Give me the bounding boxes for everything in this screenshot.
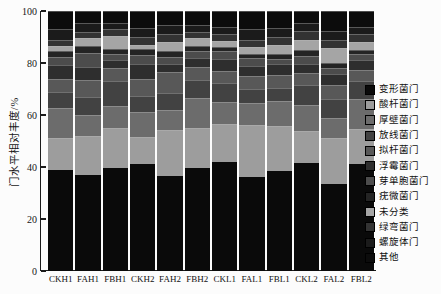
x-tick-label-FAL1: FAL1: [239, 274, 264, 285]
bar-segment-螺旋体门: [349, 27, 374, 35]
stacked-bar-chart: 门水平相对丰度/% 020406080100 CKH1FAH1FBH1CKH2F…: [0, 0, 441, 294]
legend-item-酸杆菌门: 酸杆菌门: [365, 97, 429, 112]
y-tick-mark-60: [41, 114, 46, 115]
bar-segment-绿弯菌门: [294, 31, 319, 41]
bar-segment-变形菌门: [212, 162, 237, 271]
legend-item-浮霉菌门: 浮霉菌门: [365, 158, 429, 173]
x-tick-label-FBH1: FBH1: [103, 274, 128, 285]
bar-segment-变形菌门: [239, 177, 264, 271]
bar-FAL1: [239, 11, 264, 271]
bar-segment-拟杆菌门: [349, 70, 374, 82]
bar-segment-浮霉菌门: [321, 74, 346, 85]
bar-segment-浮霉菌门: [239, 66, 264, 76]
legend-label: 螺旋体门: [379, 237, 419, 248]
bar-segment-厚壁菌门: [157, 110, 182, 130]
bar-segment-厚壁菌门: [294, 105, 319, 132]
y-tick-mark-100: [41, 10, 46, 11]
bar-segment-芽单胞菌门: [130, 55, 155, 64]
legend-swatch-icon: [365, 238, 375, 248]
bar-segment-拟杆菌门: [130, 79, 155, 96]
bar-segment-浮霉菌门: [185, 58, 210, 67]
bar-segment-放线菌门: [130, 96, 155, 113]
bar-segment-厚壁菌门: [75, 115, 100, 136]
bar-segment-放线菌门: [321, 99, 346, 118]
bar-segment-未分类: [294, 40, 319, 49]
bar-CKH1: [48, 11, 73, 271]
legend-item-厚壁菌门: 厚壁菌门: [365, 113, 429, 128]
bar-segment-浮霉菌门: [212, 59, 237, 71]
bar-FAL2: [321, 11, 346, 271]
bar-segment-放线菌门: [75, 97, 100, 115]
y-tick-label-40: 40: [2, 162, 37, 173]
bar-segment-其他: [321, 11, 346, 31]
bar-segment-变形菌门: [103, 168, 128, 271]
bar-segment-螺旋体门: [267, 28, 292, 37]
bar-segment-绿弯菌门: [349, 34, 374, 42]
bar-segment-酸杆菌门: [239, 125, 264, 178]
x-tick-label-FBL1: FBL1: [267, 274, 292, 285]
legend-item-绿弯菌门: 绿弯菌门: [365, 220, 429, 235]
bar-segment-酸杆菌门: [75, 136, 100, 175]
legend-item-拟杆菌门: 拟杆菌门: [365, 143, 429, 158]
bar-segment-其他: [103, 11, 128, 23]
x-tick-label-FAL2: FAL2: [321, 274, 346, 285]
bar-segment-厚壁菌门: [130, 112, 155, 137]
bar-segment-芽单胞菌门: [48, 57, 73, 65]
bar-segment-螺旋体门: [157, 25, 182, 34]
y-tick-label-100: 100: [2, 6, 37, 17]
x-tick-label-CKH1: CKH1: [48, 274, 73, 285]
bar-segment-浮霉菌门: [267, 64, 292, 74]
bar-segment-芽单胞菌门: [239, 58, 264, 66]
bar-segment-未分类: [321, 48, 346, 63]
bar-CKH2: [130, 11, 155, 271]
legend-label: 浮霉菌门: [379, 161, 419, 172]
bar-segment-芽单胞菌门: [212, 51, 237, 59]
legend-item-其他: 其他: [365, 250, 429, 265]
bar-FBL1: [267, 11, 292, 271]
bar-segment-拟杆菌门: [267, 75, 292, 88]
bar-segment-芽单胞菌门: [75, 53, 100, 67]
bar-segment-酸杆菌门: [103, 128, 128, 168]
x-tick-label-FAH2: FAH2: [157, 274, 182, 285]
bar-segment-其他: [349, 11, 374, 27]
bar-CKL1: [212, 11, 237, 271]
legend-label: 放线菌门: [379, 130, 419, 141]
bar-segment-酸杆菌门: [321, 138, 346, 184]
bar-segment-放线菌门: [294, 85, 319, 105]
bar-segment-厚壁菌门: [212, 102, 237, 124]
bar-segment-厚壁菌门: [239, 103, 264, 124]
bar-segment-浮霉菌门: [157, 64, 182, 72]
legend-item-芽单胞菌门: 芽单胞菌门: [365, 174, 429, 189]
y-tick-mark-0: [41, 270, 46, 271]
bar-segment-放线菌门: [48, 92, 73, 108]
bar-segment-其他: [294, 11, 319, 23]
legend-label: 酸杆菌门: [379, 99, 419, 110]
y-axis-label: 门水平相对丰度/%: [6, 82, 22, 202]
bar-FBH1: [103, 11, 128, 271]
bar-segment-螺旋体门: [294, 23, 319, 31]
legend-swatch-icon: [365, 85, 375, 95]
bar-segment-未分类: [157, 42, 182, 51]
bar-segment-拟杆菌门: [48, 79, 73, 93]
bar-segment-放线菌门: [267, 88, 292, 102]
y-tick-mark-40: [41, 166, 46, 167]
bar-segment-绿弯菌门: [239, 40, 264, 48]
bar-segment-螺旋体门: [212, 27, 237, 35]
bar-segment-螺旋体门: [239, 29, 264, 39]
bar-segment-变形菌门: [294, 163, 319, 271]
x-tick-label-CKH2: CKH2: [130, 274, 155, 285]
bar-segment-酸杆菌门: [130, 137, 155, 164]
bar-segment-螺旋体门: [48, 29, 73, 39]
bar-segment-厚壁菌门: [267, 101, 292, 126]
bar-FAH2: [157, 11, 182, 271]
bar-segment-拟杆菌门: [321, 85, 346, 100]
bar-segment-酸杆菌门: [267, 126, 292, 171]
bar-segment-芽单胞菌门: [294, 56, 319, 64]
bar-segment-其他: [185, 11, 210, 25]
bar-segment-放线菌门: [239, 89, 264, 103]
bar-segment-厚壁菌门: [321, 118, 346, 138]
x-tick-label-FBL2: FBL2: [349, 274, 374, 285]
legend-label: 疣微菌门: [379, 191, 419, 202]
legend-label: 未分类: [379, 207, 409, 218]
bar-segment-放线菌门: [185, 80, 210, 98]
